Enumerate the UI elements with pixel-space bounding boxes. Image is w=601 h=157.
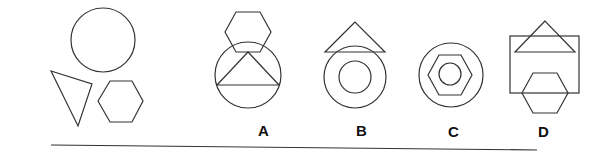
option-d-rectangle (510, 36, 579, 93)
option-a-label: A (258, 122, 269, 139)
option-c-hexagon (428, 55, 472, 95)
option-a-triangle (217, 52, 279, 85)
option-b-outer-circle (324, 46, 386, 108)
option-d-label: D (538, 123, 549, 140)
given-hexagon (98, 81, 143, 122)
option-a[interactable]: A (215, 12, 281, 139)
option-b[interactable]: B (324, 22, 386, 139)
option-c-inner-circle (439, 63, 461, 85)
option-c-label: C (448, 123, 459, 140)
puzzle-figure: A B C D (0, 0, 601, 157)
option-d[interactable]: D (510, 21, 579, 140)
option-c[interactable]: C (419, 43, 483, 140)
baseline-divider (51, 145, 537, 150)
given-shapes (51, 8, 143, 126)
option-b-label: B (356, 122, 367, 139)
given-circle (71, 8, 135, 72)
option-b-triangle (325, 22, 385, 52)
option-b-inner-circle (339, 61, 371, 93)
given-triangle (51, 71, 92, 126)
